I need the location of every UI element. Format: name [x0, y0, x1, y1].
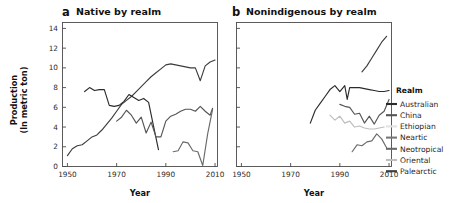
- panel-b-xtick-label: 1970: [281, 170, 300, 179]
- series-line-neotropical: [173, 109, 212, 165]
- legend-label-ethiopian: Ethiopian: [400, 122, 436, 131]
- panel-nonindigenous-by-realm: b Nonindigenous by realm 195019701990201…: [232, 5, 399, 198]
- legend-label-oriental: Oriental: [400, 156, 430, 165]
- series-line-neotropical: [352, 134, 386, 152]
- panel-b-xtick-label: 1950: [232, 170, 251, 179]
- panel-a-series: [67, 60, 215, 166]
- series-line-china: [340, 99, 389, 124]
- panel-b-xticks: 1950197019902010: [232, 163, 399, 179]
- panel-b-letter: b: [232, 5, 240, 19]
- legend-label-neartic: Neartic: [400, 133, 427, 142]
- panel-a-xtick-label: 1990: [157, 170, 176, 179]
- series-line-palearctic: [362, 36, 387, 72]
- legend-title: Realm: [396, 86, 423, 95]
- series-line-palearctic: [67, 60, 215, 156]
- legend-label-neotropical: Neotropical: [400, 145, 443, 154]
- panel-a-ytick-label: 4: [53, 123, 58, 132]
- panel-a-yticks: 02468101214: [49, 24, 66, 171]
- legend-label-australian: Australian: [400, 100, 439, 109]
- panel-a-xlabel: Year: [129, 188, 151, 198]
- panel-a-ylabel-line1: Production: [9, 75, 19, 126]
- panel-a-ytick-label: 2: [53, 142, 58, 151]
- panel-a-title: Native by realm: [76, 6, 161, 17]
- panel-a-ytick-label: 6: [53, 103, 58, 112]
- panel-b-plot-frame: [237, 23, 392, 167]
- panel-native-by-realm: a Native by realm Production (ln metric …: [9, 5, 225, 198]
- series-line-australian: [310, 86, 389, 123]
- panel-a-xtick-label: 1970: [107, 170, 126, 179]
- panel-a-ytick-label: 8: [53, 83, 58, 92]
- panel-a-ytick-label: 12: [49, 44, 58, 53]
- panel-a-plot-frame: [63, 23, 218, 167]
- figure-root: a Native by realm Production (ln metric …: [0, 0, 464, 203]
- legend: Realm AustralianChinaEthiopianNearticNeo…: [386, 86, 443, 176]
- series-line-australian: [85, 88, 159, 150]
- panel-a-ytick-label: 14: [49, 24, 59, 33]
- panel-a-xtick-label: 2010: [206, 170, 225, 179]
- panel-a-letter: a: [62, 5, 70, 19]
- legend-items: AustralianChinaEthiopianNearticNeotropic…: [386, 100, 443, 176]
- panel-b-xtick-label: 1990: [331, 170, 350, 179]
- panel-b-yticks: [237, 28, 241, 166]
- panel-a-xticks: 1950197019902010: [58, 163, 225, 179]
- panel-a-ylabel-line2: (ln metric ton): [19, 66, 29, 133]
- legend-label-palearctic: Palearctic: [400, 167, 437, 176]
- panel-b-title: Nonindigenous by realm: [246, 6, 377, 17]
- legend-label-china: China: [400, 111, 422, 120]
- panel-b-xlabel: Year: [303, 188, 325, 198]
- panel-a-ytick-label: 10: [49, 63, 59, 72]
- series-line-china: [117, 106, 213, 137]
- panel-b-series: [310, 36, 389, 151]
- panel-a-xtick-label: 1950: [58, 170, 77, 179]
